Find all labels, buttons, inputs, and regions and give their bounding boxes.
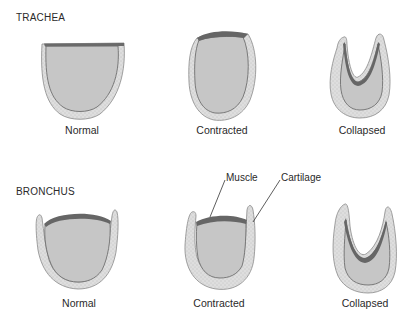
caption-bronchus-collapsed: Collapsed (320, 297, 405, 309)
bronchus-normal-shape (36, 210, 118, 289)
caption-bronchus-normal: Normal (34, 297, 124, 309)
trachea-collapsed-shape (330, 34, 390, 118)
trachea-normal-shape (42, 43, 125, 119)
muscle-leader-line (210, 180, 225, 217)
cartilage-leader-line (253, 180, 280, 222)
caption-bronchus-contracted: Contracted (174, 297, 264, 309)
trachea-contracted-shape (189, 31, 256, 120)
section-title-bronchus: BRONCHUS (16, 186, 75, 197)
caption-trachea-contracted: Contracted (177, 124, 267, 136)
section-title-trachea: TRACHEA (16, 12, 65, 23)
airway-diagram (0, 0, 405, 319)
caption-trachea-normal: Normal (37, 124, 127, 136)
bronchus-contracted-shape (185, 206, 255, 290)
annotation-cartilage: Cartilage (281, 172, 321, 183)
annotation-muscle: Muscle (226, 172, 258, 183)
bronchus-collapsed-shape (333, 204, 396, 293)
caption-trachea-collapsed: Collapsed (317, 124, 405, 136)
